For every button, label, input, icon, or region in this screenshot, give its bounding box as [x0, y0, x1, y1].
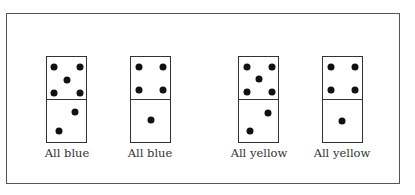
domino-label: All yellow [219, 146, 299, 160]
pip [148, 116, 155, 123]
domino-label: All yellow [302, 146, 382, 160]
domino-bottom-half [323, 100, 362, 143]
pip [339, 117, 346, 124]
pip [269, 89, 276, 96]
domino-bottom-half [47, 100, 86, 143]
pip [328, 64, 335, 71]
domino-4 [322, 56, 363, 143]
pip [77, 64, 84, 71]
domino-top-half [47, 57, 86, 100]
domino-bottom-half [239, 100, 278, 143]
pip [328, 87, 335, 94]
domino-2 [130, 56, 171, 143]
pip [352, 64, 359, 71]
pip [77, 90, 84, 97]
domino-1 [46, 56, 87, 143]
pip [64, 77, 71, 84]
pip [51, 90, 58, 97]
pip [256, 76, 263, 83]
pip [136, 64, 143, 71]
pip [160, 64, 167, 71]
domino-bottom-half [131, 100, 170, 143]
domino-top-half [239, 57, 278, 100]
domino-3 [238, 56, 279, 143]
pip [265, 109, 272, 116]
pip [56, 127, 63, 134]
pip [160, 87, 167, 94]
pip [244, 64, 251, 71]
domino-top-half [323, 57, 362, 100]
pip [72, 108, 79, 115]
domino-label: All blue [27, 146, 107, 160]
pip [51, 64, 58, 71]
pip [136, 87, 143, 94]
pip [244, 89, 251, 96]
pip [247, 127, 254, 134]
pip [352, 87, 359, 94]
pip [269, 64, 276, 71]
domino-label: All blue [110, 146, 190, 160]
domino-top-half [131, 57, 170, 100]
